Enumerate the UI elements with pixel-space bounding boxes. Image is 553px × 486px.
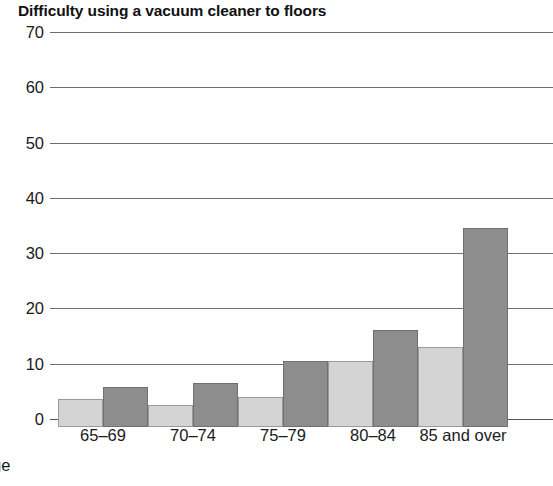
bar-series-dark-3[interactable] bbox=[283, 361, 328, 427]
y-axis-tick-labels: 706050403020100 bbox=[0, 28, 44, 423]
y-tick-label-10: 10 bbox=[0, 356, 44, 373]
y-tick-label-70: 70 bbox=[0, 24, 44, 41]
bar-group-3 bbox=[238, 32, 328, 423]
y-tick-label-30: 30 bbox=[0, 245, 44, 262]
bar-series-light-3[interactable] bbox=[238, 397, 283, 427]
y-tick-label-40: 40 bbox=[0, 190, 44, 207]
bar-group-4 bbox=[328, 32, 418, 423]
plot-area bbox=[50, 28, 553, 423]
bar-series-dark-5[interactable] bbox=[463, 228, 508, 427]
y-tick-label-0: 0 bbox=[0, 411, 44, 428]
bar-series-light-1[interactable] bbox=[58, 399, 103, 427]
y-tick-label-20: 20 bbox=[0, 300, 44, 317]
bar-series-dark-2[interactable] bbox=[193, 383, 238, 427]
bar-group-1 bbox=[58, 32, 148, 423]
x-tick-label-5: 85 and over bbox=[400, 426, 526, 446]
x-axis-caption: ge bbox=[0, 456, 10, 475]
bar-series-dark-1[interactable] bbox=[103, 387, 148, 427]
bar-chart: Difficulty using a vacuum cleaner to flo… bbox=[0, 0, 553, 486]
bar-group-2 bbox=[148, 32, 238, 423]
bar-series-dark-4[interactable] bbox=[373, 330, 418, 427]
chart-title: Difficulty using a vacuum cleaner to flo… bbox=[18, 2, 326, 20]
bar-group-5 bbox=[418, 32, 508, 423]
x-axis-tick-labels: 65–6970–7475–7980–8485 and over bbox=[50, 426, 553, 450]
y-tick-label-60: 60 bbox=[0, 79, 44, 96]
bar-series-light-4[interactable] bbox=[328, 361, 373, 427]
bar-series-light-2[interactable] bbox=[148, 405, 193, 427]
bar-series-light-5[interactable] bbox=[418, 347, 463, 427]
y-tick-label-50: 50 bbox=[0, 135, 44, 152]
